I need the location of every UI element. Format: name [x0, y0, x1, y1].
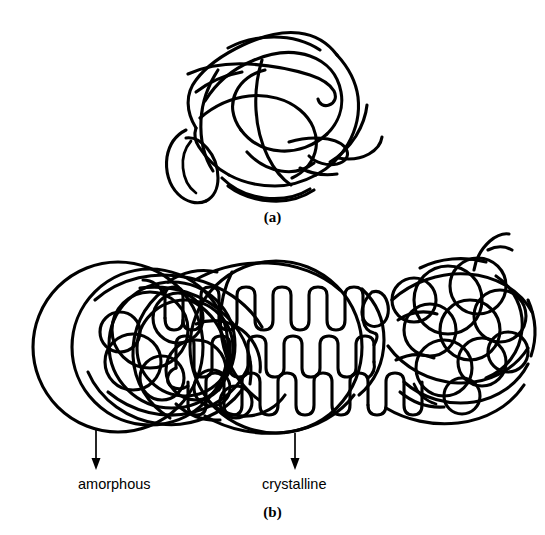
panel-a-caption: (a)	[0, 210, 545, 225]
panel-a-random-coil	[166, 33, 382, 203]
amorphous-callout-arrow	[92, 430, 101, 470]
polymer-morphology-figure: (a) amorphous crystalline (b)	[0, 0, 545, 535]
crystalline-callout-arrow	[291, 433, 300, 470]
figure-drawing	[0, 0, 545, 535]
amorphous-region-label: amorphous	[78, 477, 151, 492]
crystalline-region-label: crystalline	[262, 477, 326, 492]
right-amorphous-region	[388, 234, 532, 414]
panel-b-caption: (b)	[0, 505, 545, 520]
teardrop-fold	[362, 291, 388, 326]
